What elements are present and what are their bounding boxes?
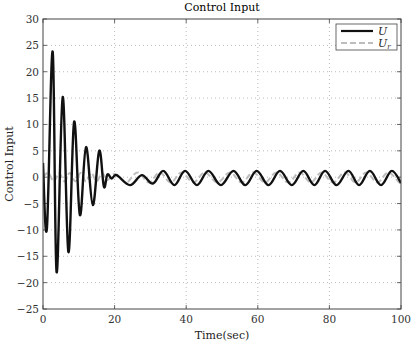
- y-tick-label: 5: [32, 145, 39, 157]
- x-tick-label: 100: [391, 313, 411, 325]
- x-tick-label: 0: [40, 313, 47, 325]
- x-axis-ticks: 020406080100: [40, 19, 411, 325]
- y-axis-label: Control Input: [3, 126, 16, 202]
- chart-title: Control Input: [184, 1, 260, 14]
- y-tick-label: −20: [17, 277, 39, 289]
- y-tick-label: 25: [26, 39, 39, 51]
- y-tick-label: −15: [17, 250, 39, 262]
- y-tick-label: −25: [17, 303, 39, 315]
- x-tick-label: 80: [323, 313, 336, 325]
- y-tick-label: 15: [26, 92, 39, 104]
- control-input-chart: Control Input 302520151050−5−10−15−20−25…: [0, 0, 414, 348]
- y-tick-label: −10: [17, 224, 39, 236]
- y-axis-ticks: 302520151050−5−10−15−20−25: [17, 13, 401, 315]
- y-tick-label: 10: [26, 118, 39, 130]
- x-tick-label: 40: [180, 313, 193, 325]
- y-tick-label: 30: [26, 13, 39, 25]
- x-tick-label: 20: [108, 313, 121, 325]
- y-tick-label: 0: [32, 171, 39, 183]
- y-tick-label: −5: [24, 198, 39, 210]
- legend: U Ur: [336, 24, 397, 51]
- x-axis-label: Time(sec): [195, 329, 250, 342]
- y-tick-label: 20: [26, 66, 39, 78]
- x-tick-label: 60: [251, 313, 264, 325]
- series-u-line: [43, 51, 401, 272]
